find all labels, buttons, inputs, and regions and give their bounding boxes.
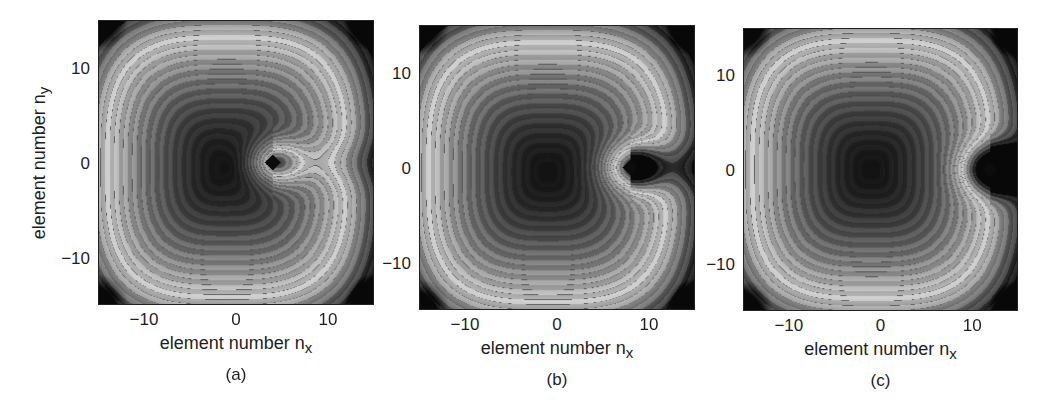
source-diamond-marker [266, 156, 280, 170]
y-tick-label: −10 [382, 254, 411, 271]
y-tick-label: −10 [61, 249, 90, 266]
y-tick-label: 10 [716, 67, 735, 84]
x-tick-label: −10 [130, 311, 159, 328]
source-diamond-marker [984, 163, 998, 177]
contour-plot-area [419, 25, 695, 310]
contour-canvas [744, 29, 1017, 310]
y-axis-label: element number ny [29, 86, 52, 239]
contour-canvas [99, 21, 373, 304]
x-axis-label: element number nx [481, 338, 634, 361]
panel-caption: (b) [547, 370, 568, 390]
x-tick-label: 10 [963, 317, 982, 334]
contour-plot-area [98, 20, 374, 305]
contour-plot-area [743, 28, 1018, 311]
y-tick-label: −10 [706, 255, 735, 272]
y-tick-label: 0 [726, 161, 735, 178]
x-tick-label: 0 [552, 316, 561, 333]
x-tick-label: −10 [774, 317, 803, 334]
source-diamond-marker [624, 161, 638, 175]
x-tick-label: 10 [319, 311, 338, 328]
x-tick-label: 10 [640, 316, 659, 333]
x-tick-label: 0 [231, 311, 240, 328]
x-tick-label: 0 [876, 317, 885, 334]
y-tick-label: 10 [392, 64, 411, 81]
y-tick-label: 0 [402, 159, 411, 176]
y-tick-label: 0 [81, 154, 90, 171]
x-axis-label: element number nx [160, 333, 313, 356]
x-tick-label: −10 [451, 316, 480, 333]
panel-caption: (c) [871, 371, 891, 391]
contour-canvas [420, 26, 694, 309]
panel-caption: (a) [226, 365, 247, 385]
y-tick-label: 10 [71, 59, 90, 76]
x-axis-label: element number nx [804, 339, 957, 362]
